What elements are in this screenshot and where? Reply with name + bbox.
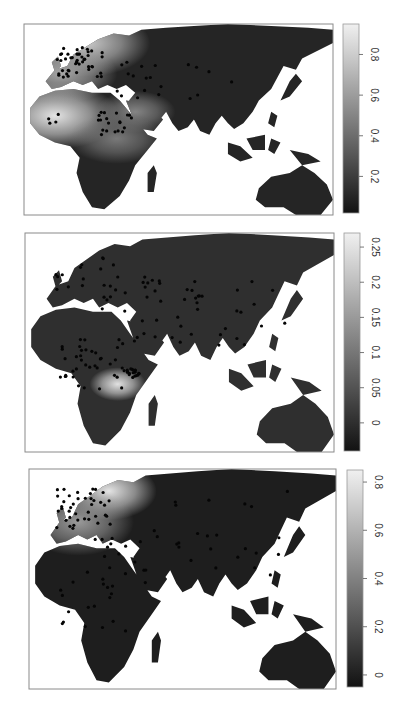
sample-site-point (79, 354, 82, 357)
sample-site-point (118, 121, 121, 124)
sample-site-point (103, 555, 106, 558)
sample-site-point (80, 55, 83, 58)
sample-site-point (102, 582, 105, 585)
sample-site-point (64, 519, 67, 522)
sample-site-point (103, 504, 106, 507)
sample-site-point (260, 324, 263, 327)
colorbar-tick-label: 0.1 (370, 346, 381, 360)
sample-site-point (96, 522, 99, 525)
sample-site-point (61, 273, 64, 276)
sample-site-point (60, 507, 63, 510)
sample-site-point (84, 348, 87, 351)
sample-site-point (130, 116, 133, 119)
sample-site-point (113, 130, 116, 133)
sample-site-point (83, 58, 86, 61)
sample-site-point (101, 578, 104, 581)
sample-site-point (107, 499, 110, 502)
landmass (0, 9, 333, 215)
sample-site-point (96, 75, 99, 78)
sample-site-point (253, 566, 256, 569)
sample-site-point (102, 491, 105, 494)
sample-site-point (188, 97, 191, 100)
sample-site-point (255, 552, 258, 555)
sample-site-point (142, 332, 145, 335)
sample-site-point (116, 275, 119, 278)
sample-site-point (71, 527, 74, 530)
sample-site-point (112, 620, 115, 623)
map-area (25, 233, 334, 452)
sample-site-point (84, 497, 87, 500)
sample-site-point (90, 503, 93, 506)
sample-site-point (71, 370, 74, 373)
sample-site-point (209, 547, 212, 550)
sample-site-point (77, 384, 80, 387)
sample-site-point (132, 74, 135, 77)
sample-site-point (155, 319, 158, 322)
sample-site-point (87, 68, 90, 71)
sample-site-point (55, 526, 58, 529)
sample-site-point (75, 367, 78, 370)
sample-site-point (90, 350, 93, 353)
sample-site-point (99, 267, 102, 270)
sample-site-point (105, 298, 108, 301)
sample-site-point (87, 518, 90, 521)
sample-site-point (121, 130, 124, 133)
sample-site-point (59, 589, 62, 592)
sample-site-point (108, 566, 111, 569)
sample-site-point (87, 65, 90, 68)
sample-site-point (121, 342, 124, 345)
sample-site-point (224, 327, 227, 330)
sample-site-point (98, 387, 101, 390)
sample-site-point (81, 284, 84, 287)
sample-site-point (114, 358, 117, 361)
sample-site-point (90, 49, 93, 52)
sample-site-point (56, 58, 59, 61)
sample-site-point (127, 72, 130, 75)
sample-site-point (84, 363, 87, 366)
figure: 0.20.40.60.8 00.050.10.150.20.25 00.20.4… (0, 0, 406, 704)
sample-site-point (105, 117, 108, 120)
sample-site-point (128, 373, 131, 376)
sample-site-point (103, 111, 106, 114)
sample-site-point (243, 502, 246, 505)
sample-site-point (277, 553, 280, 556)
sample-site-point (235, 337, 238, 340)
sample-site-point (67, 69, 70, 72)
sample-site-point (175, 542, 178, 545)
sample-site-point (116, 89, 119, 92)
sample-site-point (100, 111, 103, 114)
sample-site-point (125, 61, 128, 64)
sample-site-point (109, 542, 112, 545)
sample-site-point (62, 47, 65, 50)
sample-site-point (230, 80, 233, 83)
colorbar-1: 0.20.40.60.8 (343, 24, 380, 213)
sample-site-point (277, 536, 280, 539)
sample-site-point (92, 499, 95, 502)
sample-site-point (123, 126, 126, 129)
sample-site-point (144, 285, 147, 288)
colorbar-gradient (343, 24, 359, 213)
sample-site-point (62, 488, 65, 491)
sample-site-point (179, 325, 182, 328)
sample-site-point (59, 59, 62, 62)
sample-site-point (89, 497, 92, 500)
sample-site-point (84, 625, 87, 628)
sample-site-point (235, 309, 238, 312)
sample-site-point (144, 568, 147, 571)
sample-site-point (196, 308, 199, 311)
sample-site-point (94, 538, 97, 541)
sample-site-point (115, 111, 118, 114)
sample-site-point (94, 488, 97, 491)
sample-site-point (62, 621, 65, 624)
sample-site-point (177, 545, 180, 548)
sample-site-point (146, 281, 149, 284)
sample-site-point (195, 66, 198, 69)
colorbar-tick-label: 0.2 (373, 620, 384, 634)
sample-site-point (66, 53, 69, 56)
sample-site-point (83, 338, 86, 341)
sample-site-point (69, 506, 72, 509)
sample-site-point (77, 53, 80, 56)
sample-site-point (75, 355, 78, 358)
sample-site-point (61, 69, 64, 72)
sample-site-point (196, 93, 199, 96)
